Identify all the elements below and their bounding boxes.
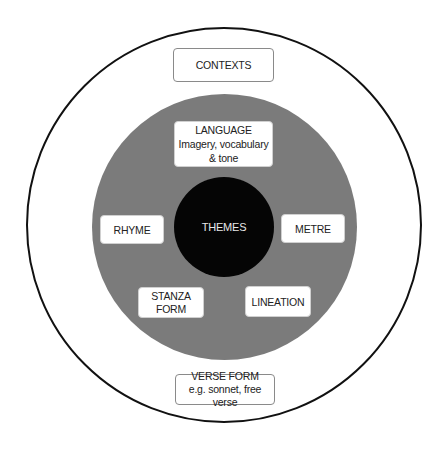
stanza-form-line1: STANZA bbox=[151, 290, 190, 303]
stanza-form-line2: FORM bbox=[156, 303, 186, 316]
language-subtitle-line1: Imagery, vocabulary bbox=[179, 137, 269, 151]
stanza-form-box: STANZA FORM bbox=[138, 287, 204, 318]
lineation-label: LINEATION bbox=[252, 295, 305, 309]
contexts-box: CONTEXTS bbox=[173, 48, 274, 82]
language-subtitle-line2: & tone bbox=[209, 151, 238, 165]
metre-label: METRE bbox=[295, 222, 331, 236]
language-box: LANGUAGE Imagery, vocabulary & tone bbox=[174, 121, 273, 167]
language-title: LANGUAGE bbox=[195, 123, 252, 137]
metre-box: METRE bbox=[281, 214, 345, 243]
lineation-box: LINEATION bbox=[245, 286, 311, 317]
rhyme-label: RHYME bbox=[114, 223, 151, 237]
verse-form-subtitle: e.g. sonnet, free verse bbox=[176, 383, 274, 409]
verse-form-box: VERSE FORM e.g. sonnet, free verse bbox=[175, 374, 275, 405]
core-circle-themes: THEMES bbox=[174, 177, 274, 277]
contexts-label: CONTEXTS bbox=[196, 58, 252, 72]
themes-label: THEMES bbox=[202, 221, 247, 233]
rhyme-box: RHYME bbox=[100, 215, 164, 244]
verse-form-title: VERSE FORM bbox=[191, 370, 258, 383]
